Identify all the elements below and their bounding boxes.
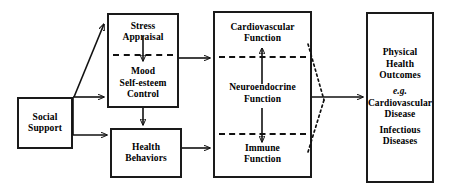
- social-support-line-2: Support: [28, 123, 62, 134]
- immune-line-2: Function: [244, 154, 281, 165]
- node-physical-health-outcomes: Physical Health Outcomes e.g. Cardiovasc…: [366, 12, 434, 183]
- immune-group: Immune Function: [244, 143, 281, 165]
- stress-appraisal-group: Stress Appraisal: [122, 21, 163, 43]
- neuroendocrine-immune-dashed-divider: [219, 133, 306, 135]
- outcomes-heading-3: Outcomes: [379, 70, 420, 81]
- outcomes-secondary-1: Infectious: [379, 125, 420, 136]
- neuroendocrine-line-2: Function: [229, 94, 296, 105]
- node-stress-appraisal-mood: Stress Appraisal Mood Self-esteem Contro…: [107, 13, 179, 108]
- edge-social-support-to-stress-appraisal: [74, 24, 104, 97]
- cardiovascular-neuroendocrine-dashed-divider: [219, 56, 306, 58]
- stress-line-2: Appraisal: [122, 32, 163, 43]
- health-behaviors-line-2: Behaviors: [125, 153, 167, 164]
- node-physiological-function: Cardiovascular Function Neuroendocrine F…: [213, 11, 312, 178]
- outcomes-secondary-2: Diseases: [383, 136, 418, 147]
- outcomes-example-2: Disease: [385, 109, 416, 120]
- mood-line-2: Self-esteem: [120, 78, 167, 89]
- mood-line-1: Mood: [120, 66, 167, 77]
- neuroendocrine-line-1: Neuroendocrine: [229, 82, 296, 93]
- cardiovascular-line-2: Function: [230, 33, 294, 44]
- node-social-support: Social Support: [17, 97, 73, 149]
- outcomes-heading-2: Health: [386, 59, 414, 70]
- health-behaviors-line-1: Health: [132, 142, 160, 153]
- outcomes-heading-1: Physical: [383, 47, 418, 58]
- stress-mood-dashed-divider: [113, 54, 173, 56]
- social-support-line-1: Social: [33, 112, 58, 123]
- mood-group: Mood Self-esteem Control: [120, 66, 167, 100]
- cardiovascular-line-1: Cardiovascular: [230, 22, 294, 33]
- mood-line-3: Control: [120, 89, 167, 100]
- immune-line-1: Immune: [244, 143, 281, 154]
- stress-line-1: Stress: [122, 21, 163, 32]
- outcomes-example-1: Cardiovascular: [368, 98, 432, 109]
- pathway-diagram: Social Support Stress Appraisal Mood Sel…: [0, 0, 449, 192]
- outcomes-example-label: e.g.: [393, 86, 407, 97]
- node-health-behaviors: Health Behaviors: [110, 128, 182, 178]
- neuroendocrine-group: Neuroendocrine Function: [229, 82, 296, 104]
- cardiovascular-group: Cardiovascular Function: [230, 22, 294, 44]
